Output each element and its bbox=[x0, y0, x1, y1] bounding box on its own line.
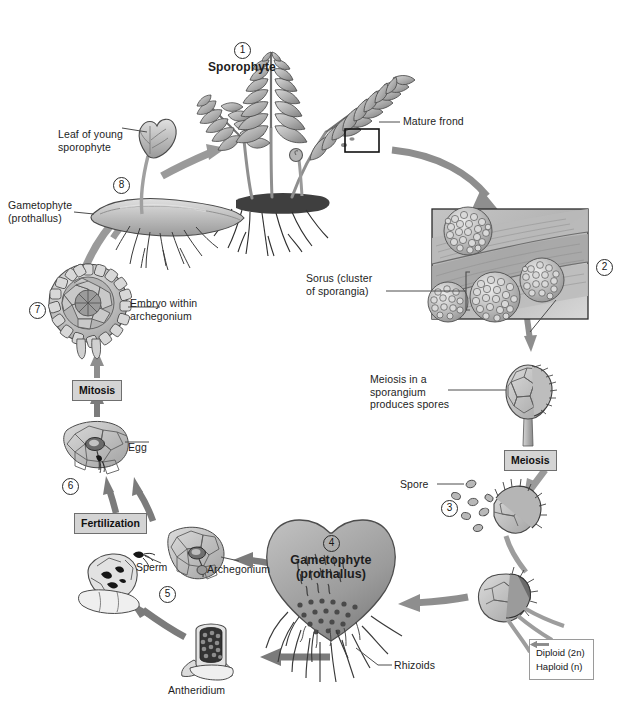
stage-number-6: 6 bbox=[62, 478, 79, 495]
label-meiosis-sporangium: Meiosis in a sporangium produces spores bbox=[370, 373, 462, 411]
label-mature-frond: Mature frond bbox=[403, 115, 464, 128]
label-spore: Spore bbox=[400, 478, 429, 491]
label-leaf-young-sporophyte: Leaf of young sporophyte bbox=[58, 128, 134, 153]
arrow-to-young-gametophyte bbox=[113, 217, 129, 238]
arrow-spore-to-gametophyte bbox=[398, 594, 468, 612]
stage-number-7: 7 bbox=[29, 302, 46, 319]
legend-arrow-haploid-icon bbox=[530, 640, 550, 649]
arrow-mitosis-to-embryo bbox=[90, 350, 104, 378]
diagram-artwork bbox=[0, 0, 642, 725]
legend-item-haploid: Haploid (n) bbox=[536, 660, 585, 673]
arrow-sporophyte-to-sorus bbox=[392, 150, 500, 212]
frond-right-mature bbox=[310, 76, 415, 160]
frond-left bbox=[197, 95, 270, 150]
stage-number-2: 2 bbox=[596, 259, 613, 276]
arrow-embryo-to-young-sporophyte bbox=[83, 199, 128, 273]
mature-frond-highlight bbox=[345, 122, 400, 152]
process-box-meiosis: Meiosis bbox=[504, 450, 557, 471]
stage-number-8: 8 bbox=[113, 177, 130, 194]
rhizoids-art bbox=[266, 612, 402, 682]
antheridia-dots bbox=[297, 598, 357, 634]
legend-label-haploid: Haploid (n) bbox=[536, 660, 582, 673]
sorus-cluster bbox=[428, 207, 564, 322]
stage-number-4: 4 bbox=[323, 535, 340, 552]
label-gametophyte-sub: (prothallus) bbox=[272, 567, 390, 582]
label-rhizoids: Rhizoids bbox=[394, 659, 435, 672]
label-sporophyte: Sporophyte bbox=[208, 60, 276, 74]
arrow-sorus-to-sporangium bbox=[524, 318, 537, 352]
stage-number-3: 3 bbox=[441, 500, 458, 517]
label-embryo: Embryo within archegonium bbox=[130, 297, 220, 322]
sporophyte-fern-plant bbox=[197, 52, 415, 256]
fiddlehead bbox=[290, 149, 303, 197]
arrow-fertilization-to-egg bbox=[103, 476, 116, 513]
arrow-gametophyte-to-antheridium bbox=[260, 648, 330, 666]
arrow-antheridium-to-fertilization bbox=[128, 600, 185, 637]
sorus-panel-art bbox=[386, 207, 588, 332]
label-antheridium: Antheridium bbox=[168, 684, 225, 697]
label-gametophyte-prothallus-left: Gametophyte (prothallus) bbox=[8, 199, 80, 224]
label-egg: Egg bbox=[128, 441, 147, 454]
label-gametophyte-title: Gametophyte bbox=[272, 553, 390, 568]
label-sorus: Sorus (cluster of sporangia) bbox=[306, 272, 392, 297]
sperm-cells bbox=[101, 567, 126, 589]
process-box-fertilization: Fertilization bbox=[74, 513, 147, 534]
arrow-young-sporophyte-to-sporophyte bbox=[162, 144, 226, 176]
stage-number-5: 5 bbox=[159, 586, 176, 603]
label-archegonium: Archegonium bbox=[207, 563, 270, 576]
sporangium-meiosis-art bbox=[448, 365, 557, 446]
label-sperm: Sperm bbox=[136, 561, 167, 574]
process-box-mitosis: Mitosis bbox=[72, 380, 122, 401]
fern-life-cycle-diagram: 1 Sporophyte Mature frond 2 Sorus (clust… bbox=[0, 0, 642, 725]
antheridium-art bbox=[182, 624, 234, 680]
legend: Diploid (2n) Haploid (n) bbox=[529, 639, 594, 680]
arrow-meiosis bbox=[520, 388, 545, 496]
stage-number-1: 1 bbox=[234, 42, 251, 59]
